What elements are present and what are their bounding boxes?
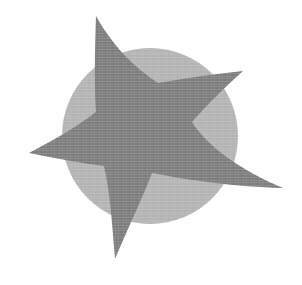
artboard: Abstract star and circle graphic A light… [0,0,302,285]
star-circle-graphic: Abstract star and circle graphic A light… [0,0,302,285]
